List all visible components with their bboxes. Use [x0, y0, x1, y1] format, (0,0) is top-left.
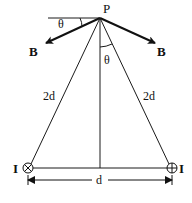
side-left-label: 2d — [43, 89, 55, 103]
field-right-label: B — [157, 44, 166, 59]
point-p-label: P — [103, 1, 110, 16]
current-out-of-page-icon — [167, 163, 177, 173]
angle-top-label: θ — [58, 17, 64, 31]
field-vector-left — [46, 18, 100, 43]
base-distance-label: d — [96, 173, 102, 187]
side-right-line — [100, 18, 169, 164]
current-left-label: I — [13, 161, 18, 176]
field-vector-right — [100, 18, 155, 43]
angle-arc-top — [80, 18, 82, 27]
angle-arc-inner — [100, 44, 112, 47]
current-right-label: I — [179, 161, 184, 176]
magnetic-field-diagram: P B B θ θ 2d 2d d I I — [0, 0, 192, 203]
field-left-label: B — [29, 44, 38, 59]
current-into-page-icon — [23, 163, 33, 173]
side-right-label: 2d — [143, 89, 155, 103]
angle-inner-label: θ — [104, 53, 110, 67]
side-left-line — [31, 18, 100, 164]
